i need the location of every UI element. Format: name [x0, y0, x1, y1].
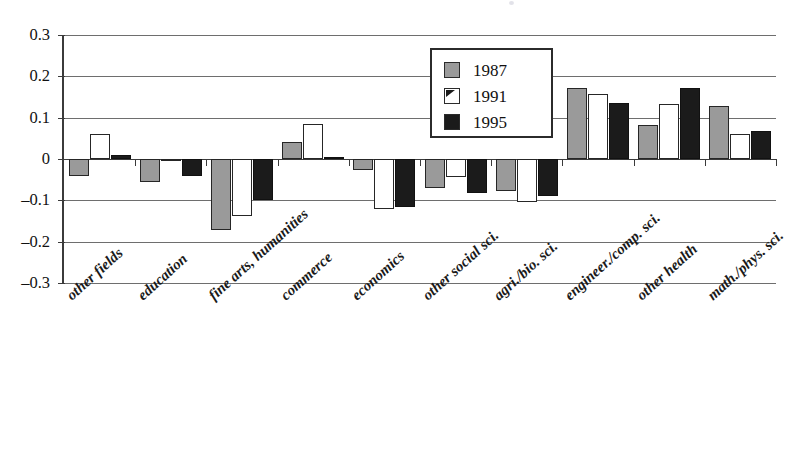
bar-1987 [709, 106, 729, 159]
bar-1991 [232, 159, 252, 216]
bar-1991 [303, 124, 323, 159]
x-tick [634, 159, 635, 166]
y-tick-label: 0.2 [0, 68, 50, 84]
legend-swatch-1991 [444, 88, 460, 104]
x-tick [135, 159, 136, 166]
page-artifact [509, 1, 514, 5]
bar-1991 [659, 104, 679, 159]
bar-1995 [182, 159, 202, 176]
legend-label-1991: 1991 [473, 88, 507, 105]
bar-1987 [140, 159, 160, 182]
bar-1987 [69, 159, 89, 176]
bar-1995 [467, 159, 487, 193]
x-tick [562, 159, 563, 166]
bar-1995 [253, 159, 273, 200]
bar-1991 [517, 159, 537, 202]
x-tick [705, 159, 706, 166]
y-tick-label: –0.2 [0, 234, 50, 250]
bar-group [278, 35, 349, 283]
x-tick [776, 159, 777, 166]
bar-1987 [425, 159, 445, 188]
legend-label-1987: 1987 [473, 62, 507, 79]
y-tick-label: –0.1 [0, 192, 50, 208]
y-tick-label: –0.3 [0, 275, 50, 291]
legend-label-1995: 1995 [473, 114, 507, 131]
bar-1995 [680, 88, 700, 159]
x-tick [349, 159, 350, 166]
bar-1995 [538, 159, 558, 196]
legend-swatch-1987 [444, 62, 460, 78]
bar-1995 [609, 103, 629, 159]
bar-1991 [730, 134, 750, 159]
bar-1987 [496, 159, 516, 191]
bar-chart: 0.30.20.10–0.1–0.2–0.3 1987 1991 1995 ot… [0, 0, 787, 476]
y-tick-label: 0.1 [0, 110, 50, 126]
bar-1995 [751, 131, 771, 159]
legend-item-1995: 1995 [444, 109, 551, 135]
bar-1987 [353, 159, 373, 170]
bar-1991 [588, 94, 608, 159]
bar-1987 [211, 159, 231, 230]
bar-1991 [446, 159, 466, 177]
bar-1987 [638, 125, 658, 159]
bar-group [64, 35, 135, 283]
bar-1995 [111, 155, 131, 159]
gridline [64, 283, 776, 284]
x-tick [491, 159, 492, 166]
y-tick [58, 283, 65, 284]
bar-group [135, 35, 206, 283]
y-tick-label: 0 [0, 151, 50, 167]
bar-1995 [324, 157, 344, 159]
legend-item-1987: 1987 [444, 57, 551, 83]
x-tick [278, 159, 279, 166]
bar-group [349, 35, 420, 283]
x-tick [420, 159, 421, 166]
bar-1991 [374, 159, 394, 209]
bar-1995 [395, 159, 415, 207]
bar-1987 [282, 142, 302, 159]
bar-1987 [567, 88, 587, 159]
legend-swatch-1995 [444, 114, 460, 130]
y-tick-label: 0.3 [0, 27, 50, 43]
bar-1991 [90, 134, 110, 159]
plot-area [62, 35, 774, 283]
bar-1991 [161, 159, 181, 161]
x-tick [206, 159, 207, 166]
legend: 1987 1991 1995 [430, 48, 553, 138]
legend-item-1991: 1991 [444, 83, 551, 109]
